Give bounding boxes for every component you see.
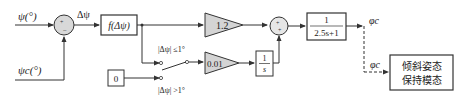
switch-cond-lower: |Δψ| >1° xyxy=(158,86,185,95)
input-psi: ψ(°) xyxy=(15,10,53,25)
svg-text:1: 1 xyxy=(263,54,267,63)
nonlinear-block-label: f(Δψ) xyxy=(108,20,130,32)
gain-integral: 0.01 xyxy=(205,52,239,74)
gain-i-value: 0.01 xyxy=(207,59,223,69)
input-psi-label: ψ(°) xyxy=(18,10,37,23)
svg-text:1: 1 xyxy=(324,15,329,25)
block-diagram: ψ(°) ψc(°) + − Δψ f(Δψ) 1.2 0 xyxy=(0,0,457,100)
integrator-block: 1 s xyxy=(256,51,273,76)
nonlinear-block: f(Δψ) xyxy=(101,15,137,35)
input-psi-c-label: ψc(°) xyxy=(18,64,42,77)
svg-text:保持模态: 保持模态 xyxy=(402,74,442,86)
zero-block-label: 0 xyxy=(114,74,119,84)
input-psi-c: ψc(°) xyxy=(15,37,64,80)
svg-text:倾斜姿态: 倾斜姿态 xyxy=(402,60,442,72)
svg-text:−: − xyxy=(63,27,67,35)
delta-psi-label: Δψ xyxy=(77,9,90,20)
summing-junction-1: + − xyxy=(54,15,74,35)
lag-filter-block: 1 2.5s+1 xyxy=(307,13,346,40)
zero-block: 0 xyxy=(108,70,124,86)
switch-cond-upper: |Δψ| ≤1° xyxy=(158,45,185,54)
svg-text:s: s xyxy=(263,65,266,74)
svg-text:2.5s+1: 2.5s+1 xyxy=(314,28,338,38)
mode-switch: |Δψ| ≤1° |Δψ| >1° xyxy=(158,45,189,95)
output-phi-c-label-2: φc xyxy=(370,59,381,70)
summing-junction-2: + + xyxy=(270,17,288,35)
gain-proportional: 1.2 xyxy=(205,13,243,37)
output-phi-c-label: φc xyxy=(369,15,380,26)
attitude-hold-mode-block: 倾斜姿态 保持模态 xyxy=(390,55,453,90)
gain-p-value: 1.2 xyxy=(216,20,229,31)
